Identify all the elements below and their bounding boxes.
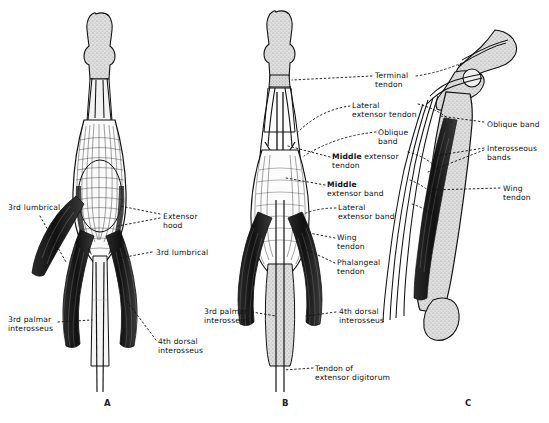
panel-letter-b: B <box>282 398 289 408</box>
terminal-tendon-b <box>269 75 290 87</box>
label-b-phalangeal-tendon: Phalangeal tendon <box>337 258 380 277</box>
anatomical-figure <box>0 0 549 423</box>
label-b-4th-dorsal-interosseus: 4th dorsal interosseus <box>339 307 384 326</box>
label-b-3rd-palmar-interosseus: 3rd palmar interosseus <box>204 307 249 326</box>
panel-letter-c: C <box>465 398 472 408</box>
label-c-oblique-band: Oblique band <box>487 120 540 129</box>
label-a-extensor-hood: Extensor hood <box>163 212 198 231</box>
label-b-oblique-band: Oblique band <box>378 128 408 147</box>
panel-letter-a: A <box>104 398 111 408</box>
label-b-terminal-tendon: Terminal tendon <box>375 71 408 90</box>
label-a-3rd lumbrical right: 3rd lumbrical <box>156 248 208 257</box>
label-c-interosseous-bands: Interosseous bands <box>487 144 537 163</box>
label-b-middle-extensor-tendon: Middle extensor tendon <box>332 152 399 171</box>
label-b-lateral-extensor-band: Lateral extensor band <box>338 203 395 222</box>
label-a-3rd lumbrical: 3rd lumbrical <box>8 203 60 212</box>
label-a-4th dorsal interosseus: 4th dorsal interosseus <box>158 337 203 356</box>
label-b-middle-extensor-band: Middle extensor band <box>327 180 384 199</box>
proximal-shaft-a <box>91 256 109 366</box>
pip-joint-c <box>463 69 481 87</box>
label-b-wing-tendon: Wing tendon <box>337 233 365 252</box>
label-a-3rd palmar interosseus: 3rd palmar interosseus <box>8 315 53 334</box>
label-b-tendon-of-extensor-digitorum: Tendon of extensor digitorum <box>315 364 390 383</box>
middle-phalanx-a <box>87 79 112 121</box>
label-b-lateral-extensor-tendon: Lateral extensor tendon <box>352 101 417 120</box>
label-c-wing-tendon: Wing tendon <box>503 184 531 203</box>
